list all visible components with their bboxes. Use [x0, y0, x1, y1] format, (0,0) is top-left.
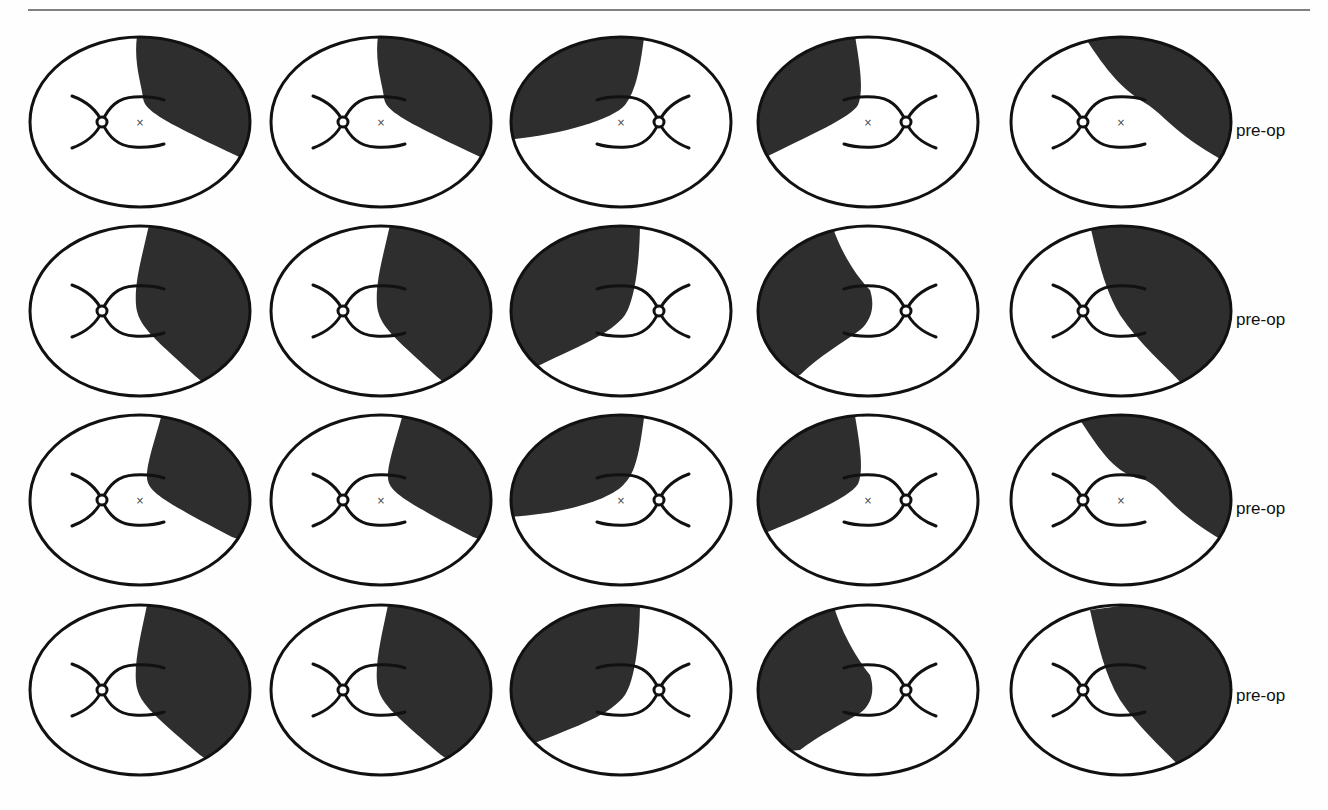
field-diagram: × [271, 20, 511, 207]
node-circle-icon [901, 685, 911, 695]
node-circle-icon [901, 495, 911, 505]
field-diagram [745, 590, 978, 775]
diagram-row-1: ××××× [30, 20, 1240, 207]
diagram-canvas: ×××××××××× [0, 0, 1328, 810]
node-circle-icon [97, 685, 107, 695]
field-diagram [500, 590, 731, 775]
fixation-cross-icon: × [377, 117, 385, 128]
visual-field-figure: ××××××××××pre-oppre-oppre-oppre-op [0, 0, 1328, 810]
field-diagram: × [271, 400, 511, 585]
node-circle-icon [1078, 306, 1088, 316]
node-circle-icon [97, 117, 107, 127]
field-diagram: × [1011, 20, 1240, 207]
fixation-cross-icon: × [617, 117, 625, 128]
row-label-pre-op: pre-op [1236, 121, 1285, 141]
field-diagram: × [490, 20, 731, 207]
node-circle-icon [97, 495, 107, 505]
fixation-cross-icon: × [864, 117, 872, 128]
fixation-cross-icon: × [617, 495, 625, 506]
field-diagram: × [745, 20, 978, 207]
node-circle-icon [654, 117, 664, 127]
fixation-cross-icon: × [1117, 117, 1125, 128]
field-diagram [271, 590, 511, 775]
node-circle-icon [338, 117, 348, 127]
node-circle-icon [654, 685, 664, 695]
field-diagram [30, 590, 270, 775]
fixation-cross-icon: × [864, 495, 872, 506]
field-diagram: × [30, 400, 270, 585]
fixation-cross-icon: × [136, 495, 144, 506]
field-diagram [1011, 210, 1240, 400]
field-diagram [271, 210, 511, 405]
field-diagram [30, 210, 270, 405]
node-circle-icon [1078, 117, 1088, 127]
row-label-pre-op: pre-op [1236, 499, 1285, 519]
node-circle-icon [1078, 495, 1088, 505]
node-circle-icon [654, 495, 664, 505]
diagram-row-3: ××××× [30, 400, 1240, 585]
node-circle-icon [1078, 685, 1088, 695]
node-circle-icon [901, 306, 911, 316]
field-diagram: × [490, 400, 731, 585]
node-circle-icon [338, 495, 348, 505]
field-diagram: × [1011, 400, 1240, 585]
node-circle-icon [338, 685, 348, 695]
node-circle-icon [654, 306, 664, 316]
node-circle-icon [338, 306, 348, 316]
node-circle-icon [901, 117, 911, 127]
row-label-pre-op: pre-op [1236, 686, 1285, 706]
node-circle-icon [97, 306, 107, 316]
diagram-row-2 [30, 210, 1240, 405]
field-diagram [745, 210, 978, 396]
field-diagram: × [745, 400, 978, 585]
fixation-cross-icon: × [136, 117, 144, 128]
row-label-pre-op: pre-op [1236, 310, 1285, 330]
field-diagram: × [30, 20, 270, 207]
field-diagram [1011, 590, 1240, 780]
fixation-cross-icon: × [1117, 495, 1125, 506]
fixation-cross-icon: × [377, 495, 385, 506]
field-diagram [500, 210, 731, 396]
diagram-row-4 [30, 590, 1240, 780]
